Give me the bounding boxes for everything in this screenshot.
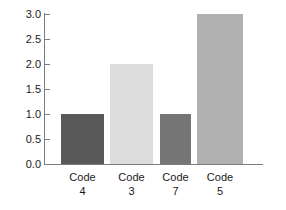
y-axis-tick (45, 89, 50, 90)
y-axis-tick-label: 0.5 (1, 134, 41, 145)
y-axis-tick-label: 1.0 (1, 109, 41, 120)
y-axis-tick (45, 39, 50, 40)
bar (197, 14, 243, 164)
y-axis-tick (45, 14, 50, 15)
x-axis-label-line1: Code (190, 170, 250, 184)
y-axis-tick-label: 0.0 (1, 159, 41, 170)
x-axis-line (44, 164, 263, 165)
bar (160, 114, 191, 164)
x-axis-label-line2: 5 (190, 184, 250, 198)
y-axis-tick-label: 1.5 (1, 84, 41, 95)
y-axis-tick (45, 139, 50, 140)
y-axis-tick-label: 2.5 (1, 34, 41, 45)
y-axis-tick (45, 164, 50, 165)
bar (110, 64, 153, 164)
y-axis-tick-label: 2.0 (1, 59, 41, 70)
bar (61, 114, 104, 164)
y-axis-tick-label: 3.0 (1, 9, 41, 20)
x-axis-tick-label: Code5 (190, 170, 250, 198)
bar-chart: 0.00.51.01.52.02.53.0 Code4Code3Code7Cod… (0, 0, 286, 210)
y-axis-tick (45, 114, 50, 115)
y-axis-tick (45, 64, 50, 65)
